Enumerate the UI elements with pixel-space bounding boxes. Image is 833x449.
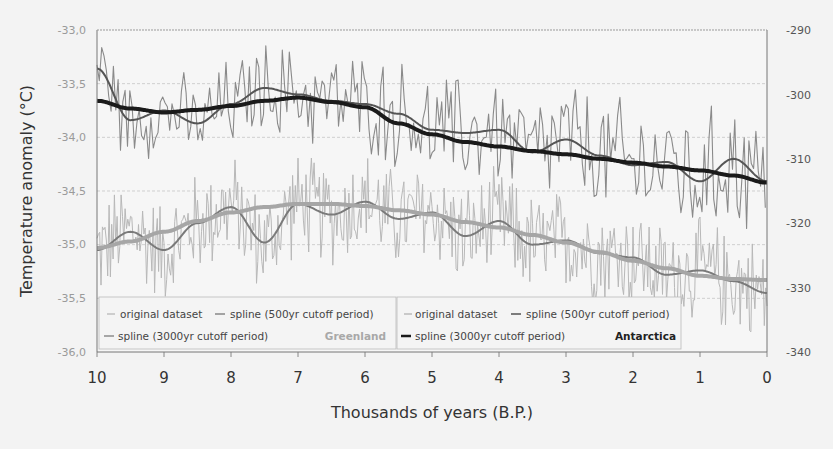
x-tick: 3 [561,369,571,387]
y-tick-right: -310 [786,153,811,166]
x-tick: 4 [494,369,504,387]
y-tick-right: -320 [786,217,811,230]
x-tick: 9 [159,369,169,387]
y-tick-left: -34,0 [58,131,86,144]
y-tick-left: -33,0 [58,24,86,37]
legend-antarctica-spline3000: spline (3000yr cutoff period) [415,330,565,342]
y-tick-left: -35,0 [58,238,86,251]
legend-antarctica-title: Antarctica [615,330,676,342]
x-tick: 5 [427,369,437,387]
x-tick: 6 [360,369,370,387]
x-tick: 1 [695,369,705,387]
legend-antarctica-spline500: spline (500yr cutoff period) [526,308,670,320]
x-tick: 7 [293,369,303,387]
y-tick-left: -35,5 [58,292,86,305]
y-axis-label: Temperature anomaly (°C) [17,85,36,298]
x-tick: 0 [762,369,772,387]
x-tick: 10 [87,369,106,387]
legend-greenland-spline500: spline (500yr cutoff period) [230,308,374,320]
temperature-anomaly-chart: original dataset spline (500yr cutoff pe… [0,0,833,449]
x-tick: 2 [628,369,638,387]
y-tick-right: -290 [786,24,811,37]
y-tick-right: -330 [786,282,811,295]
y-tick-left: -33,5 [58,78,86,91]
y-tick-left: -36,0 [58,346,86,359]
y-tick-right: -340 [786,346,811,359]
x-axis-label: Thousands of years (B.P.) [330,403,533,422]
y-tick-left: -34,5 [58,185,86,198]
y-tick-right: -300 [786,89,811,102]
legend-antarctica-original: original dataset [415,308,497,320]
x-tick: 8 [226,369,236,387]
legend-greenland-title: Greenland [325,330,386,342]
legend-greenland-original: original dataset [120,308,202,320]
legend: original dataset spline (500yr cutoff pe… [99,297,681,349]
legend-greenland-spline3000: spline (3000yr cutoff period) [118,330,268,342]
